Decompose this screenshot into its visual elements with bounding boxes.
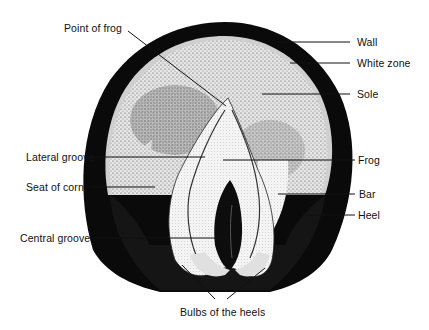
label-seat-of-corn: Seat of corn <box>26 181 84 193</box>
label-bar: Bar <box>359 188 376 200</box>
label-bulbs-of-the-heels: Bulbs of the heels <box>180 306 265 318</box>
label-lateral-groove: Lateral groove <box>26 151 95 163</box>
label-white-zone: White zone <box>357 57 411 69</box>
label-sole: Sole <box>357 88 378 100</box>
label-frog: Frog <box>358 154 380 166</box>
label-heel: Heel <box>358 209 380 221</box>
label-point-of-frog: Point of frog <box>64 22 122 34</box>
label-central-groove: Central groove <box>20 232 90 244</box>
label-wall: Wall <box>357 36 377 48</box>
